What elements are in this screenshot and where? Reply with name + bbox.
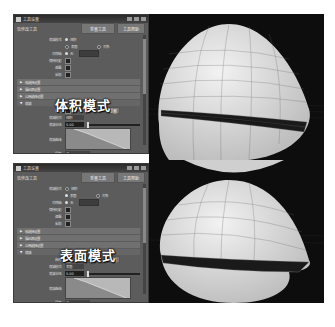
expand-icon: ▶ [20, 80, 22, 84]
radio-object-label: 对象 [102, 193, 108, 198]
radio-surface-label: 表面 [71, 44, 77, 49]
falloff-curve-label: 衰减曲线: [17, 137, 65, 142]
radio-object[interactable] [97, 45, 101, 49]
preserve-checkbox[interactable] [65, 58, 71, 64]
section-label: 操纵器设置 [25, 236, 40, 241]
reflect-label: 反射: [17, 72, 65, 77]
section-manipulator[interactable]: ▶操纵器设置 [17, 235, 140, 241]
window-title: 工具设置 [23, 165, 39, 171]
enable-label: 启用: [17, 257, 65, 262]
radio-volume[interactable] [65, 187, 69, 191]
radio-surface[interactable] [65, 194, 68, 197]
mask-label: 遮罩: [17, 214, 65, 219]
reset-tool-button[interactable]: 重置工具 [81, 23, 115, 34]
section-label: 操纵器设置 [25, 87, 40, 92]
close-icon[interactable] [141, 166, 146, 170]
axis-value: 无 [70, 200, 73, 205]
section-soft-select[interactable]: ▶软选择设置 [17, 228, 140, 234]
expand-icon: ▶ [20, 87, 22, 91]
axis-label: 对称轴: [17, 200, 65, 205]
falloff-radius-input[interactable]: 5.00 [65, 271, 84, 276]
falloff-radius-input[interactable]: 5.00 [65, 122, 84, 127]
axis-value: 无 [70, 51, 73, 56]
expand-icon: ▶ [20, 236, 22, 240]
deformed-sphere-mesh [149, 14, 324, 160]
viewport-surface-result[interactable] [149, 160, 324, 303]
panel-scrollbar[interactable] [143, 184, 146, 294]
expand-icon: ▶ [20, 229, 22, 233]
slider-knob[interactable] [87, 122, 89, 128]
falloff-curve-graph[interactable] [65, 128, 131, 150]
tool-help-button[interactable]: 工具帮助 [117, 23, 145, 34]
window-icon [16, 17, 21, 22]
minimize-icon[interactable] [127, 166, 132, 170]
preserve-label: 保持历史: [17, 207, 65, 212]
radio-object[interactable] [96, 194, 100, 198]
section-label: 软选择设置 [25, 229, 40, 234]
interp-label: 插值: [17, 151, 65, 154]
falloff-mode-dropdown[interactable]: 表面 [65, 264, 84, 269]
tool-settings-panel-volume: 工具设置 软修改工具 重置工具 工具帮助 衰减模式:体积 表面对象 对称轴:无 … [13, 14, 149, 154]
radio-surface[interactable] [65, 45, 69, 49]
falloff-mode-label: 衰减模式: [17, 37, 65, 42]
reset-tool-button[interactable]: 重置工具 [81, 172, 115, 183]
interp-label: 插值: [17, 300, 65, 303]
section-label: 软选择设置 [25, 80, 40, 85]
scroll-thumb[interactable] [143, 188, 146, 243]
section-soft-select[interactable]: ▶软选择设置 [17, 79, 140, 85]
close-icon[interactable] [141, 17, 146, 21]
section-label: 衰减 [25, 101, 31, 106]
radio-volume-label: 体积 [70, 37, 76, 42]
minimize-icon[interactable] [127, 17, 132, 21]
tool-name: 软修改工具 [17, 26, 79, 32]
falloff-radius-label: 衰减半径: [17, 122, 65, 127]
preserve-checkbox[interactable] [65, 207, 71, 213]
falloff-mode-dropdown[interactable]: 体积 [65, 115, 84, 120]
axis-field[interactable] [79, 199, 99, 206]
window-title: 工具设置 [23, 16, 39, 22]
interp-dropdown[interactable]: 无 [65, 300, 90, 303]
falloff-mode-label: 衰减模式: [17, 186, 65, 191]
expand-icon: ▶ [20, 243, 22, 247]
scroll-thumb[interactable] [143, 39, 146, 94]
slider-knob[interactable] [87, 271, 89, 277]
tool-name: 软修改工具 [17, 175, 79, 181]
interp-dropdown[interactable]: 无 [65, 151, 90, 154]
maximize-icon[interactable] [134, 166, 139, 170]
radio-axis[interactable] [65, 201, 68, 204]
collapse-icon: ▼ [20, 101, 22, 105]
reflect-checkbox[interactable] [65, 72, 71, 78]
volume-mode-label: 体积模式 [55, 95, 111, 114]
mask-label: 遮罩: [17, 65, 65, 70]
collapse-icon: ▼ [20, 250, 22, 254]
axis-field[interactable] [79, 50, 99, 57]
viewport-volume-result[interactable] [149, 14, 324, 160]
falloff-curve-label: 衰减曲线: [17, 286, 65, 291]
window-icon [16, 166, 21, 171]
panel-scrollbar[interactable] [143, 35, 146, 145]
radio-volume[interactable] [65, 38, 68, 41]
window-titlebar[interactable]: 工具设置 [14, 15, 148, 23]
tool-help-button[interactable]: 工具帮助 [117, 172, 145, 183]
radio-volume-label: 体积 [71, 186, 77, 191]
mask-checkbox[interactable] [65, 214, 71, 220]
radio-axis[interactable] [65, 52, 68, 55]
tool-settings-panel-surface: 工具设置 软修改工具 重置工具 工具帮助 衰减模式:体积 表面对象 对称轴:无 … [13, 163, 149, 303]
maximize-icon[interactable] [134, 17, 139, 21]
mask-checkbox[interactable] [65, 65, 71, 71]
section-label: 衰减 [25, 250, 31, 255]
radio-object-label: 对象 [103, 44, 109, 49]
window-titlebar[interactable]: 工具设置 [14, 164, 148, 172]
reflect-label: 反射: [17, 221, 65, 226]
falloff-radius-slider[interactable] [87, 273, 140, 275]
reflect-checkbox[interactable] [65, 221, 71, 227]
preserve-label: 保持历史: [17, 58, 65, 63]
falloff-mode-label-2: 衰减模式: [17, 115, 65, 120]
falloff-curve-graph[interactable] [65, 277, 131, 299]
surface-mode-label: 表面模式 [60, 245, 116, 264]
falloff-radius-label: 衰减半径: [17, 271, 65, 276]
axis-label: 对称轴: [17, 51, 65, 56]
radio-surface-label: 表面 [70, 193, 76, 198]
section-manipulator[interactable]: ▶操纵器设置 [17, 86, 140, 92]
falloff-radius-slider[interactable] [87, 124, 140, 126]
